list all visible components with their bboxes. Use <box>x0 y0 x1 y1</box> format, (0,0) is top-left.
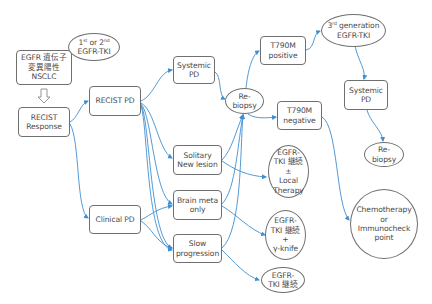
node-chemotherapy-or-immunocheckpoint: Chemotherapy or Immunocheck point <box>350 189 418 259</box>
first-second-line: 1st or 2nd <box>78 38 109 47</box>
node-egfr-tki-continue-gamma-knife: EGFR- TKI 継続 + γ-knife <box>265 210 306 260</box>
node-egfr-tki-continue-local-therapy: EGFR- TKI 継続 ± Local Therapy <box>268 145 309 198</box>
edge-rebiopsy-to-t790mpos <box>246 51 259 88</box>
node-rebiopsy-2: Re- biopsy <box>364 142 404 167</box>
node-systemic-pd: Systemic PD <box>173 56 215 84</box>
edge-systemicpd-to-rebiopsy <box>215 72 225 99</box>
edge-brainmeta-to-rebiopsy <box>222 115 243 204</box>
node-solitary-new-lesion: Solitary New lesion <box>173 145 222 175</box>
edge-response-to-clinicalpd <box>70 124 88 218</box>
third-gen-line: 3rd generation <box>328 21 380 30</box>
edge-slow-to-tkicontinue <box>222 250 259 280</box>
hollow-down-arrow-icon <box>38 89 50 103</box>
node-t790m-positive: T790M positive <box>260 36 306 65</box>
node-first-second-gen-tki: 1st or 2nd EGFR-TKI <box>68 33 120 61</box>
edge-brainmeta-to-gammaknife <box>222 206 265 235</box>
edge-recistpd-to-systemicpd <box>141 70 172 101</box>
edge-3rdgen-to-systemicpd2 <box>355 46 364 79</box>
edge-rebiopsy-to-t790mneg <box>248 114 276 118</box>
node-egfr-tki-continue: EGFR- TKI 継続 <box>261 267 305 293</box>
edge-recistpd-to-solitary <box>141 103 172 158</box>
node-slow-progression: Slow progression <box>173 234 222 263</box>
node-clinical-pd: Clinical PD <box>89 205 141 234</box>
node-t790m-negative: T790M negative <box>277 101 322 130</box>
node-recist-pd: RECIST PD <box>89 86 141 116</box>
edge-t790mneg-to-chemo <box>322 117 349 220</box>
node-third-gen-egfr-tki: 3rd generation EGFR-TKI <box>321 14 386 47</box>
third-gen-tki-line: EGFR-TKI <box>337 31 370 40</box>
egfr-tki-line: EGFR-TKI <box>77 47 110 56</box>
edge-solitary-to-localtherapy <box>222 161 266 177</box>
treatment-flow-diagram: EGFR 遺伝子 変異陽性 NSCLC 1st or 2nd EGFR-TKI … <box>0 0 432 304</box>
node-recist-response: RECIST Response <box>18 107 70 137</box>
node-brain-meta-only: Brain meta only <box>173 190 222 220</box>
edge-t790mpos-to-3rdgen <box>306 31 320 50</box>
node-egfr-nsclc: EGFR 遺伝子 変異陽性 NSCLC <box>16 50 72 85</box>
edge-response-to-recistpd <box>70 101 88 122</box>
node-rebiopsy: Re- biopsy <box>225 88 264 114</box>
node-systemic-pd-2: Systemic PD <box>344 80 388 110</box>
edge-systemicpd2-to-rebiopsy2 <box>367 110 383 141</box>
